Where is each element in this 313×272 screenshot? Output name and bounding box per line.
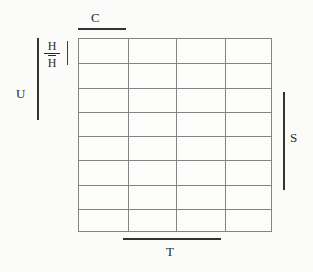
grid-column-line: [128, 39, 129, 231]
h-numerator: H: [44, 40, 60, 54]
grid-row-line: [79, 160, 271, 161]
s-span-bar: [283, 92, 285, 190]
matrix-grid: [78, 38, 272, 232]
grid-column-line: [225, 39, 226, 231]
label-s: S: [290, 131, 297, 144]
c-span-bar: [78, 28, 126, 30]
u-span-bar: [37, 38, 39, 120]
grid-row-line: [79, 209, 271, 210]
grid-row-line: [79, 63, 271, 64]
grid-row-line: [79, 185, 271, 186]
schematic-grid-figure: C U S T H H: [0, 0, 313, 272]
grid-row-line: [79, 112, 271, 113]
label-c: C: [91, 11, 100, 24]
label-t: T: [166, 245, 174, 258]
h-over-hbar-fraction: H H: [44, 40, 60, 69]
t-span-bar: [123, 238, 221, 240]
h-denominator: H: [44, 54, 60, 69]
grid-column-line: [176, 39, 177, 231]
h-span-bar: [67, 41, 68, 65]
h-denominator-overline: H: [48, 55, 57, 69]
grid-row-line: [79, 88, 271, 89]
label-u: U: [16, 87, 25, 100]
grid-row-line: [79, 136, 271, 137]
